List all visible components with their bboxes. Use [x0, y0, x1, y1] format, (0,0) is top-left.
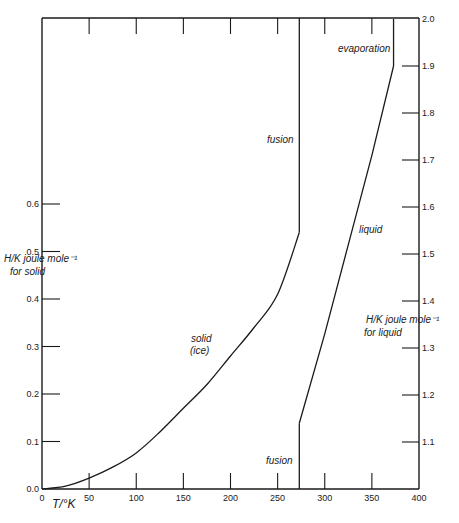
- x-tick-label: 300: [317, 493, 332, 503]
- x-axis-ticks: 050100150200250300350400: [39, 473, 426, 503]
- left-tick-label: 0.1: [26, 437, 39, 447]
- right-tick-label: 1.3: [422, 343, 435, 353]
- series-liquid: [299, 66, 393, 423]
- plot-frame: [42, 18, 419, 489]
- right-axis-subtitle: for liquid: [364, 327, 402, 338]
- left-tick-label: 0.3: [26, 342, 39, 352]
- annotation-solid: solid: [191, 333, 212, 344]
- annotation-fusion-upper: fusion: [267, 134, 294, 145]
- top-ticks: [89, 18, 372, 34]
- right-tick-label: 1.6: [422, 202, 435, 212]
- left-tick-label: 0.6: [26, 199, 39, 209]
- x-tick-label: 0: [39, 493, 44, 503]
- enthalpy-chart: 050100150200250300350400 0.00.10.20.30.4…: [0, 0, 459, 523]
- right-tick-label: 1.7: [422, 155, 435, 165]
- data-series: [42, 18, 394, 489]
- x-tick-label: 200: [223, 493, 238, 503]
- right-tick-label: 1.4: [422, 296, 435, 306]
- annotation-evaporation: evaporation: [338, 43, 391, 54]
- annotation-ice: (ice): [190, 345, 209, 356]
- x-tick-label: 100: [129, 493, 144, 503]
- left-tick-label: 0.4: [26, 294, 39, 304]
- left-tick-label: 0.2: [26, 389, 39, 399]
- x-tick-label: 150: [176, 493, 191, 503]
- left-axis-subtitle: for solid: [10, 266, 45, 277]
- right-axis-title: H/K joule mole⁻¹: [366, 314, 440, 325]
- right-tick-label: 1.1: [422, 437, 435, 447]
- right-tick-label: 2.0: [422, 14, 435, 24]
- x-tick-label: 50: [84, 493, 94, 503]
- right-axis-ticks: 1.11.21.31.41.51.61.71.81.92.0: [402, 14, 435, 447]
- left-tick-label: 0.0: [26, 484, 39, 494]
- x-axis-title: T/°K: [52, 497, 76, 511]
- right-tick-label: 1.8: [422, 108, 435, 118]
- x-tick-label: 400: [411, 493, 426, 503]
- annotation-fusion-lower: fusion: [266, 455, 293, 466]
- left-axis-title: H/K joule mole⁻¹: [4, 253, 78, 264]
- left-axis-ticks: 0.00.10.20.30.40.50.6: [26, 199, 60, 494]
- right-tick-label: 1.9: [422, 61, 435, 71]
- annotation-liquid: liquid: [359, 224, 383, 235]
- right-tick-label: 1.5: [422, 249, 435, 259]
- right-tick-label: 1.2: [422, 390, 435, 400]
- x-tick-label: 250: [270, 493, 285, 503]
- x-tick-label: 350: [364, 493, 379, 503]
- series-solid-ice: [42, 233, 299, 490]
